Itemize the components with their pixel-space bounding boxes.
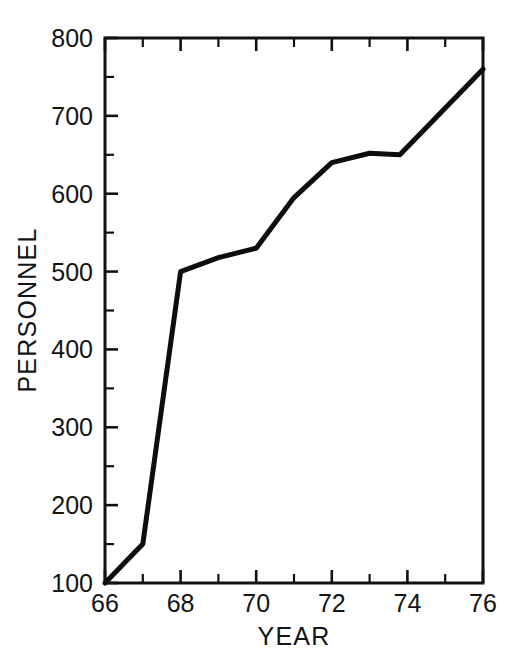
y-tick-label: 200	[51, 491, 93, 519]
y-tick-label: 300	[51, 413, 93, 441]
data-series-group	[105, 69, 483, 583]
y-tick-label: 700	[51, 102, 93, 130]
x-axis-title: YEAR	[258, 622, 331, 650]
x-tick-label: 68	[167, 589, 195, 617]
x-tick-label: 66	[91, 589, 119, 617]
y-axis-tick-labels: 100200300400500600700800	[51, 24, 93, 597]
x-tick-label: 76	[469, 589, 497, 617]
x-tick-label: 74	[393, 589, 421, 617]
x-tick-label: 70	[242, 589, 270, 617]
y-tick-label: 400	[51, 335, 93, 363]
data-line-personnel	[105, 69, 483, 583]
plot-frame	[105, 38, 483, 583]
y-axis-title: PERSONNEL	[13, 227, 41, 392]
x-tick-label: 72	[318, 589, 346, 617]
axis-frame	[105, 38, 483, 583]
line-chart: 100200300400500600700800 666870727476 YE…	[0, 0, 512, 662]
y-tick-label: 500	[51, 258, 93, 286]
x-axis-tick-labels: 666870727476	[91, 589, 497, 617]
y-tick-label: 600	[51, 180, 93, 208]
y-tick-label: 100	[51, 569, 93, 597]
y-axis-ticks	[105, 38, 118, 583]
x-axis-ticks	[105, 38, 483, 583]
chart-figure: 100200300400500600700800 666870727476 YE…	[0, 0, 512, 662]
y-tick-label: 800	[51, 24, 93, 52]
